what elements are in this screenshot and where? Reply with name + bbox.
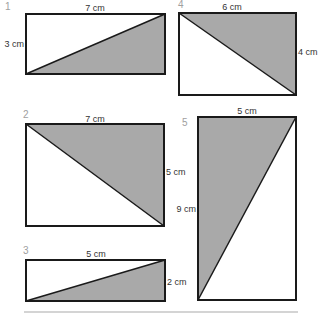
height-label: 3 cm	[4, 39, 24, 49]
figure-3: 3 5 cm 2 cm	[23, 245, 187, 301]
height-label: 2 cm	[167, 277, 187, 287]
width-label: 5 cm	[237, 106, 257, 116]
figure-1: 1 7 cm 3 cm	[4, 1, 165, 74]
width-label: 5 cm	[86, 249, 106, 259]
width-label: 7 cm	[85, 114, 105, 124]
figure-number: 5	[182, 117, 188, 128]
figure-number: 1	[5, 1, 11, 12]
figure-5: 5 5 cm 9 cm	[176, 106, 296, 300]
height-label: 4 cm	[298, 47, 318, 57]
figure-4: 4 6 cm 4 cm	[178, 0, 318, 95]
width-label: 7 cm	[85, 3, 105, 13]
triangle-area-diagram: 1 7 cm 3 cm 2 7 cm 5 cm 3 5 cm 2 cm 4 6 …	[0, 0, 320, 322]
figure-number: 3	[23, 245, 29, 256]
figure-number: 2	[23, 109, 29, 120]
figure-2: 2 7 cm 5 cm	[23, 109, 186, 226]
height-label: 9 cm	[176, 204, 196, 214]
figure-number: 4	[178, 0, 184, 10]
width-label: 6 cm	[222, 2, 242, 12]
height-label: 5 cm	[166, 167, 186, 177]
